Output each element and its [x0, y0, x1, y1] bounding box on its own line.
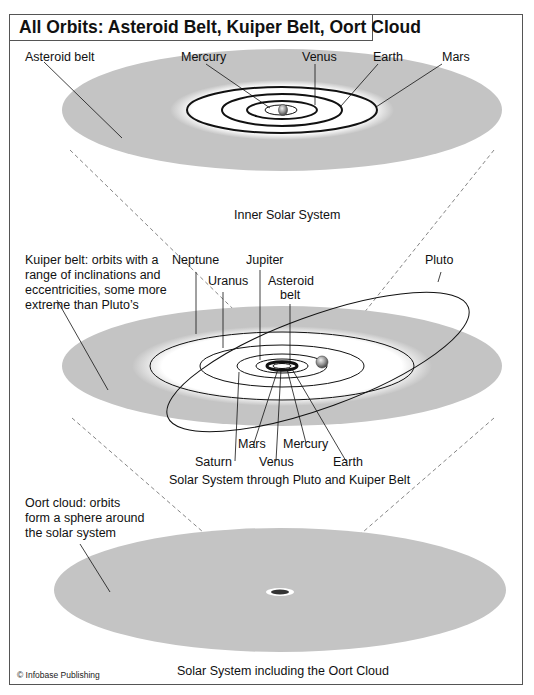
caption-oort-cloud: Solar System including the Oort Cloud [177, 664, 389, 678]
label-neptune: Neptune [172, 253, 219, 268]
label-mars-2: Mars [238, 437, 266, 452]
oort-cloud-panel [54, 528, 506, 652]
label-venus-2: Venus [259, 455, 294, 470]
label-mercury-2: Mercury [283, 437, 328, 452]
kuiper-clear-zone [132, 326, 432, 406]
label-uranus: Uranus [208, 274, 248, 289]
oort-desc-line: Oort cloud: orbits [25, 496, 145, 511]
label-pluto: Pluto [425, 253, 454, 268]
oort-desc-line: the solar system [25, 526, 145, 541]
label-asteroid-belt: Asteroid belt [25, 50, 94, 65]
label-asteroid-belt-2: belt [280, 288, 300, 303]
caption-kuiper-belt: Solar System through Pluto and Kuiper Be… [169, 473, 410, 487]
label-earth: Earth [373, 50, 403, 65]
kuiper-description: Kuiper belt: orbits with a range of incl… [25, 253, 167, 313]
label-venus: Venus [302, 50, 337, 65]
oort-desc-line: form a sphere around [25, 511, 145, 526]
copyright-notice: © Infobase Publishing [17, 670, 100, 680]
kuiper-desc-line: Kuiper belt: orbits with a [25, 253, 167, 268]
kuiper-desc-line: extreme than Pluto’s [25, 298, 167, 313]
caption-inner-solar-system: Inner Solar System [234, 208, 340, 222]
oort-description: Oort cloud: orbits form a sphere around … [25, 496, 145, 541]
label-jupiter: Jupiter [246, 253, 284, 268]
label-saturn: Saturn [195, 455, 232, 470]
inner-solar-system-panel [44, 49, 502, 171]
label-asteroid-belt-1: Asteroid [268, 274, 314, 289]
jupiter-planet [316, 356, 328, 368]
sun [279, 105, 288, 116]
label-mercury: Mercury [181, 50, 226, 65]
label-earth-2: Earth [333, 455, 363, 470]
orbit-diagram [0, 0, 534, 695]
kuiper-desc-line: eccentricities, some more [25, 283, 167, 298]
label-mars: Mars [442, 50, 470, 65]
kuiper-desc-line: range of inclinations and [25, 268, 167, 283]
